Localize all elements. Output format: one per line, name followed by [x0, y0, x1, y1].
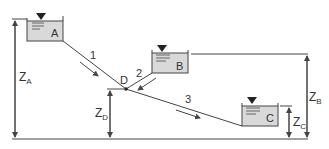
pipe-2-label: 2 [136, 67, 142, 79]
reservoir-b: B [152, 45, 188, 73]
za-label: ZA [19, 70, 32, 86]
zb-label: ZB [309, 90, 322, 106]
zd-label: ZD [95, 106, 108, 122]
zc-label: ZC [293, 115, 306, 131]
junction-d-label: D [120, 74, 128, 86]
water-level-icon [157, 45, 167, 52]
pipe-1-label: 1 [90, 49, 96, 61]
water-level-icon [36, 13, 46, 20]
reservoir-c: C [242, 97, 278, 126]
pipe-3-label: 3 [185, 93, 191, 105]
dimension-zc: ZC [280, 106, 306, 137]
reservoir-a: A [27, 13, 63, 41]
flow-arrow-pipe-1 [80, 62, 98, 76]
reservoir-b-label: B [176, 60, 183, 72]
junction-d [124, 87, 128, 91]
dimension-zd: ZD [95, 89, 124, 137]
reservoir-a-label: A [51, 27, 59, 39]
three-reservoir-diagram: A B C D 1 2 3 ZA [0, 0, 329, 149]
pipe-3 [126, 89, 242, 126]
water-level-icon [247, 97, 257, 104]
reservoir-c-label: C [266, 112, 274, 124]
